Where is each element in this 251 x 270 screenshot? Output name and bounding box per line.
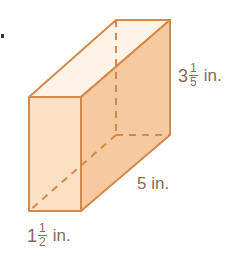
- length-label: 5 in.: [137, 175, 169, 192]
- height-label: 3 1 5 in.: [178, 62, 222, 89]
- height-fraction: 1 5: [189, 62, 198, 89]
- front-face: [29, 97, 81, 211]
- stray-mark: [1, 34, 4, 38]
- width-label: 1 1 2 in.: [27, 222, 71, 249]
- width-fraction: 1 2: [38, 222, 47, 249]
